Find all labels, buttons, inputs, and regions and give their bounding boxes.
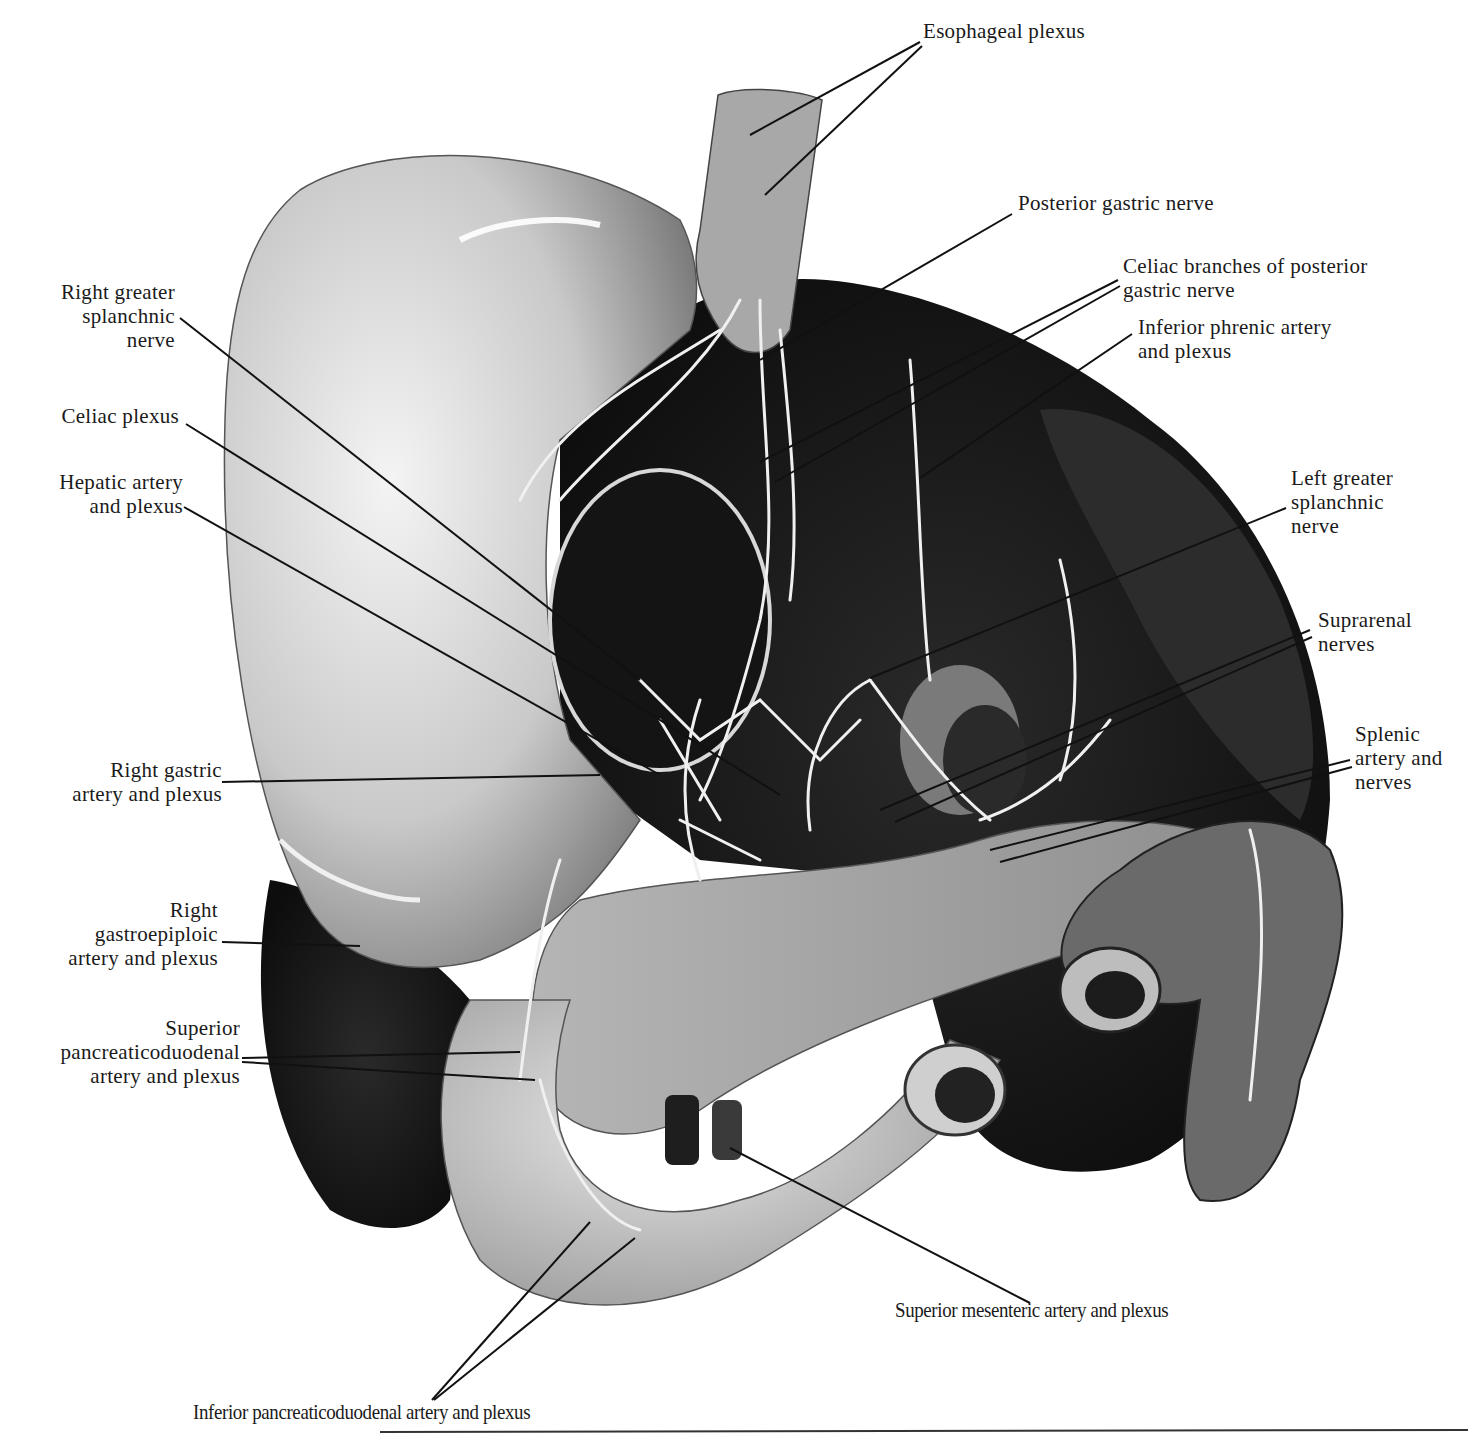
label-splenic-artery-nerves: Splenic artery and nerves <box>1355 722 1443 794</box>
label-right-gastroepiploic-artery: Right gastroepiploic artery and plexus <box>68 898 218 970</box>
label-celiac-branches: Celiac branches of posterior gastric ner… <box>1123 254 1368 302</box>
anatomy-figure: Esophageal plexus Posterior gastric nerv… <box>0 0 1468 1446</box>
label-left-greater-splanchnic-nerve: Left greater splanchnic nerve <box>1291 466 1393 538</box>
label-posterior-gastric-nerve: Posterior gastric nerve <box>1018 191 1214 215</box>
label-hepatic-artery: Hepatic artery and plexus <box>59 470 183 518</box>
anatomical-illustration <box>0 0 1468 1446</box>
label-esophageal-plexus: Esophageal plexus <box>923 19 1085 43</box>
bottom-rule <box>380 1430 1468 1432</box>
label-inferior-pancreaticoduodenal-artery: Inferior pancreaticoduodenal artery and … <box>193 1400 530 1424</box>
label-celiac-plexus: Celiac plexus <box>61 404 179 428</box>
label-superior-pancreaticoduodenal-artery: Superior pancreaticoduodenal artery and … <box>61 1016 240 1088</box>
superior-mesenteric-vessels <box>665 1095 699 1165</box>
label-suprarenal-nerves: Suprarenal nerves <box>1318 608 1412 656</box>
label-right-gastric-artery: Right gastric artery and plexus <box>72 758 222 806</box>
label-right-greater-splanchnic-nerve: Right greater splanchnic nerve <box>61 280 175 352</box>
label-inferior-phrenic-artery: Inferior phrenic artery and plexus <box>1138 315 1331 363</box>
label-superior-mesenteric-artery: Superior mesenteric artery and plexus <box>895 1298 1168 1322</box>
stomach-outline <box>550 470 770 770</box>
